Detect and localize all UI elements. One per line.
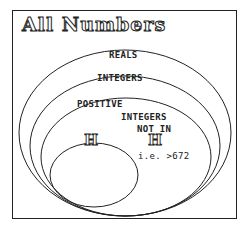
positive-label: POSITIVE bbox=[77, 99, 123, 109]
reals-label: REALS bbox=[109, 50, 138, 60]
complement-h-symbol: H bbox=[148, 131, 162, 149]
diagram-title: All Numbers bbox=[22, 13, 166, 35]
complement-line1: INTEGERS bbox=[121, 112, 167, 122]
h-ellipse bbox=[50, 143, 138, 207]
h-set-label: H bbox=[84, 131, 98, 149]
complement-note: i.e. >672 bbox=[138, 151, 189, 161]
integers-label: INTEGERS bbox=[97, 73, 143, 83]
